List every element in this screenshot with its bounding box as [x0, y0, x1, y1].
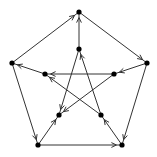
petersen-graph: [0, 0, 157, 157]
edge-5-to-8: [59, 49, 79, 115]
node-inner-bottom-right: [98, 112, 103, 117]
node-outer-left: [9, 60, 14, 65]
node-outer-bottom-left: [35, 142, 40, 147]
node-outer-top: [76, 9, 81, 14]
edge-1-to-2: [122, 63, 147, 145]
node-outer-right: [144, 60, 149, 65]
node-inner-right: [111, 71, 116, 76]
edge-4-to-0: [12, 12, 79, 63]
node-outer-bottom-right: [119, 142, 124, 147]
edge-7-to-5: [79, 49, 101, 115]
node-inner-top: [76, 46, 81, 51]
graph-canvas: [0, 0, 157, 157]
edge-6-to-8: [59, 74, 114, 115]
node-inner-bottom-left: [56, 112, 61, 117]
edge-4-to-3: [12, 63, 38, 145]
edges-group: [12, 12, 147, 147]
node-inner-left: [42, 71, 47, 76]
edge-0-to-1: [79, 12, 147, 63]
edge-7-to-9: [45, 74, 101, 115]
